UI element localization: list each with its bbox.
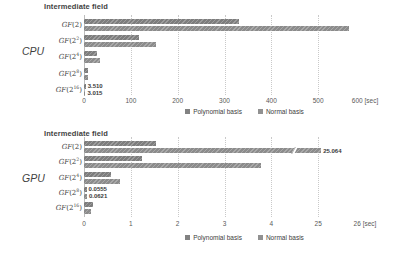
- legend-item-normal-basis: Normal basis: [258, 108, 304, 115]
- x-tick-3: 3: [223, 220, 227, 227]
- bar-polynomial-gf(2^8): [84, 68, 88, 73]
- bar-normal-gf(2^8): [84, 194, 87, 199]
- legend-item-polynomial-basis: Polynomial basis: [185, 234, 242, 241]
- legend-item-polynomial-basis: Polynomial basis: [185, 108, 242, 115]
- category-label-gf(2^4): GF(24): [24, 174, 82, 182]
- category-label-gf(2^4): GF(24): [24, 53, 82, 61]
- category-label-gf(2^2): GF(22): [24, 37, 82, 45]
- bar-normal-gf(2^16): [84, 209, 91, 214]
- gpu-legend: Polynomial basisNormal basis: [104, 234, 385, 241]
- cpu-chart: Intermediate field CPU GF(2)GF(22)GF(24)…: [0, 0, 405, 126]
- cpu-category-labels: GF(2)GF(22)GF(24)GF(28)GF(216): [0, 0, 82, 126]
- x-tick-2: 2: [176, 220, 180, 227]
- category-label-gf(2): GF(2): [24, 21, 82, 29]
- normal-legend-marker-icon: [258, 235, 263, 240]
- x-tick-0: 0: [82, 220, 86, 227]
- bar-polynomial-gf(2): [84, 141, 156, 146]
- legend-label: Polynomial basis: [193, 234, 242, 241]
- bar-polynomial-gf(2): [84, 19, 239, 24]
- bar-value-label: 0.0555: [89, 186, 107, 192]
- category-label-gf(2^16): GF(216): [24, 86, 82, 94]
- chart-figure: Intermediate field CPU GF(2)GF(22)GF(24)…: [0, 0, 405, 253]
- x-tick-300: 300: [219, 97, 230, 104]
- x-tick-600: 600 [sec]: [352, 97, 378, 104]
- x-tick-4: 4: [270, 220, 274, 227]
- x-tick-25: 25: [315, 220, 322, 227]
- bar-polynomial-gf(2^16): [84, 84, 86, 89]
- category-label-gf(2^2): GF(22): [24, 158, 82, 166]
- bar-value-label: 3.510: [88, 83, 103, 89]
- bar-normal-gf(2^16): [84, 91, 85, 96]
- bar-normal-gf(2^2): [84, 163, 261, 168]
- bar-normal-gf(2^4): [84, 58, 100, 63]
- legend-label: Polynomial basis: [193, 108, 242, 115]
- bar-value-label: 25.064: [323, 148, 341, 154]
- category-label-gf(2^8): GF(28): [24, 70, 82, 78]
- polynomial-legend-marker-icon: [185, 235, 190, 240]
- bar-polynomial-gf(2^4): [84, 51, 97, 56]
- bar-normal-gf(2^4): [84, 179, 120, 184]
- bar-polynomial-gf(2^2): [84, 35, 139, 40]
- cpu-legend: Polynomial basisNormal basis: [104, 108, 385, 115]
- bar-polynomial-gf(2^4): [84, 172, 111, 177]
- bar-value-label: 0.0621: [89, 193, 107, 199]
- x-tick-200: 200: [172, 97, 183, 104]
- x-tick-0: 0: [82, 97, 86, 104]
- bar-polynomial-gf(2^8): [84, 187, 87, 192]
- x-tick-500: 500: [313, 97, 324, 104]
- category-label-gf(2^8): GF(28): [24, 189, 82, 197]
- bar-normal-gf(2): [84, 26, 349, 31]
- bar-normal-gf(2^2): [84, 42, 156, 47]
- gpu-category-labels: GF(2)GF(22)GF(24)GF(28)GF(216): [0, 127, 82, 253]
- normal-legend-marker-icon: [258, 109, 263, 114]
- bar-normal-gf(2^8): [84, 75, 88, 80]
- bar-value-label: 3.015: [87, 90, 102, 96]
- gpu-chart: Intermediate field GPU GF(2)GF(22)GF(24)…: [0, 127, 405, 253]
- x-tick-400: 400: [266, 97, 277, 104]
- category-label-gf(2^16): GF(216): [24, 204, 82, 212]
- bar-polynomial-gf(2^16): [84, 202, 93, 207]
- x-tick-26: 26 [sec]: [354, 220, 377, 227]
- category-label-gf(2): GF(2): [24, 143, 82, 151]
- legend-item-normal-basis: Normal basis: [258, 234, 304, 241]
- legend-label: Normal basis: [266, 234, 304, 241]
- bar-normal-gf(2): [84, 148, 321, 153]
- legend-label: Normal basis: [266, 108, 304, 115]
- polynomial-legend-marker-icon: [185, 109, 190, 114]
- bar-polynomial-gf(2^2): [84, 156, 142, 161]
- x-tick-100: 100: [125, 97, 136, 104]
- x-tick-1: 1: [129, 220, 133, 227]
